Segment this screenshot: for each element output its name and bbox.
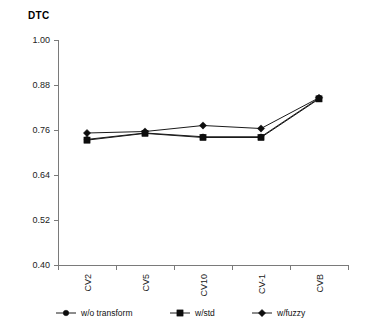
x-tick-label: CV-1: [257, 274, 267, 294]
data-point-marker: [257, 125, 264, 132]
legend-label: w/std: [194, 308, 215, 318]
data-point-marker: [83, 129, 90, 136]
data-point-marker: [84, 137, 90, 143]
x-tick-label: CV5: [141, 274, 151, 292]
chart-legend: w/o transformw/stdw/fuzzy: [56, 308, 306, 318]
series-line: [87, 98, 319, 139]
legend-label: w/o transform: [80, 308, 133, 318]
data-point-marker: [63, 310, 69, 316]
y-tick-label: 0.40: [32, 260, 50, 270]
data-series-group: [83, 94, 322, 143]
data-point-marker: [258, 309, 265, 316]
data-point-marker: [177, 310, 183, 316]
y-tick-label: 1.00: [32, 35, 50, 45]
x-tick-label: CV2: [83, 274, 93, 292]
legend-label: w/fuzzy: [276, 308, 306, 318]
y-tick-label: 0.88: [32, 80, 50, 90]
chart-container: DTC 0.400.520.640.760.881.00 CV2CV5CV10C…: [0, 0, 374, 330]
chart-plot-area: 0.400.520.640.760.881.00 CV2CV5CV10CV-1C…: [0, 0, 374, 330]
data-point-marker: [258, 134, 264, 140]
y-tick-label: 0.76: [32, 125, 50, 135]
data-point-marker: [199, 122, 206, 129]
x-tick-label: CV10: [199, 274, 209, 297]
x-axis: CV2CV5CV10CV-1CVB: [58, 265, 348, 297]
y-tick-label: 0.64: [32, 170, 50, 180]
x-tick-label: CVB: [315, 274, 325, 293]
data-point-marker: [200, 134, 206, 140]
y-tick-label: 0.52: [32, 215, 50, 225]
y-axis: 0.400.520.640.760.881.00: [32, 35, 58, 270]
